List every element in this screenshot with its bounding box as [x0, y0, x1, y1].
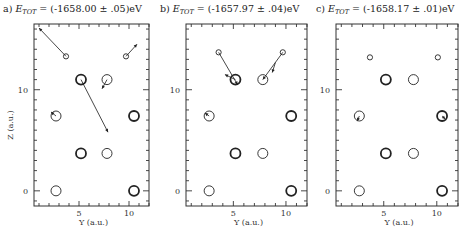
title-symbol: E — [327, 3, 335, 14]
x-tick-label: 10 — [124, 209, 134, 218]
title-subscript: TOT — [22, 8, 37, 16]
title-symbol: E — [14, 3, 22, 14]
displacement-arrow — [81, 80, 108, 133]
y-tick-label: 0 — [23, 187, 28, 196]
atom-marker — [381, 148, 391, 158]
displacement-arrow — [39, 28, 66, 56]
displacement-arrow — [219, 52, 238, 84]
atom-marker — [216, 50, 221, 55]
atom-marker — [437, 186, 447, 196]
panel-title: a) ETOT = (-1658.00 ± .05)eV — [3, 3, 142, 16]
atom-marker — [286, 111, 296, 121]
atom-marker — [230, 148, 240, 158]
atom-marker — [76, 148, 86, 158]
atom-marker — [102, 148, 112, 158]
atom-marker — [381, 75, 391, 85]
y-tick-label: 0 — [175, 187, 180, 196]
title-prefix: b) — [160, 3, 173, 14]
title-prefix: c) — [316, 3, 328, 14]
atom-marker — [129, 186, 139, 196]
title-value: = (-1658.00 ± .05)eV — [36, 3, 142, 14]
x-axis-label: Y (a.u.) — [383, 218, 413, 227]
panel-b: b) ETOT = (-1657.97 ± .04)eV510010Y (a.u… — [160, 3, 307, 227]
atom-marker — [354, 186, 364, 196]
x-tick-label: 10 — [432, 209, 442, 218]
y-tick-label: 0 — [325, 187, 330, 196]
panel-title: c) ETOT = (-1658.17 ± .01)eV — [316, 3, 455, 16]
atom-marker — [435, 55, 440, 60]
y-axis-label: Z (a.u.) — [6, 110, 15, 139]
x-tick-label: 10 — [281, 209, 291, 218]
y-tick-label: 10 — [18, 86, 28, 95]
panel-title: b) ETOT = (-1657.97 ± .04)eV — [160, 3, 299, 16]
title-subscript: TOT — [180, 8, 195, 16]
atom-marker — [63, 54, 68, 59]
atom-marker — [367, 55, 372, 60]
atom-marker — [408, 148, 418, 158]
title-prefix: a) — [3, 3, 15, 14]
atom-marker — [258, 148, 268, 158]
title-value: = (-1658.17 ± .01)eV — [349, 3, 455, 14]
atom-marker — [204, 186, 214, 196]
figure: a) ETOT = (-1658.00 ± .05)eV510010Y (a.u… — [0, 0, 469, 227]
panel-a: a) ETOT = (-1658.00 ± .05)eV510010Y (a.u… — [3, 3, 149, 227]
atom-marker — [286, 186, 296, 196]
x-tick-label: 5 — [76, 209, 81, 218]
atom-marker — [51, 186, 61, 196]
atom-marker — [123, 54, 128, 59]
y-tick-label: 10 — [320, 86, 330, 95]
atom-marker — [129, 111, 139, 121]
x-axis-label: Y (a.u.) — [78, 218, 108, 227]
x-tick-label: 5 — [381, 209, 386, 218]
atom-marker — [408, 75, 418, 85]
panel-c: c) ETOT = (-1658.17 ± .01)eV510010Y (a.u… — [316, 3, 458, 227]
title-value: = (-1657.97 ± .04)eV — [194, 3, 300, 14]
title-symbol: E — [172, 3, 180, 14]
x-tick-label: 5 — [231, 209, 236, 218]
y-tick-label: 10 — [170, 86, 180, 95]
x-axis-label: Y (a.u.) — [233, 218, 263, 227]
title-subscript: TOT — [335, 8, 350, 16]
